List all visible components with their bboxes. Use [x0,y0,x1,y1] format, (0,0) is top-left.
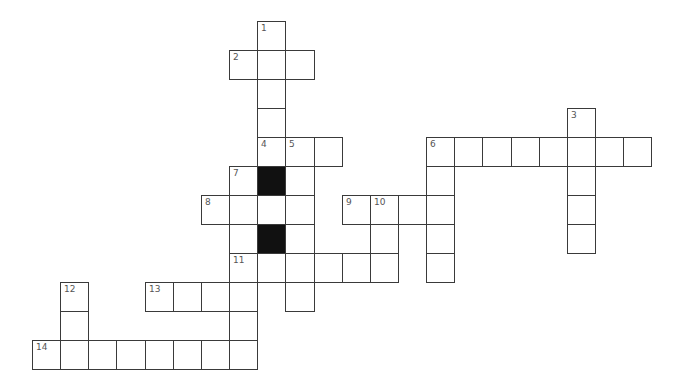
crossword-cell[interactable] [567,224,596,254]
clue-number: 9 [346,197,352,207]
clue-number: 10 [374,197,385,207]
clue-number: 3 [571,110,577,120]
crossword-cell[interactable] [539,137,568,167]
clue-number: 1 [261,23,267,33]
crossword-cell[interactable] [454,137,483,167]
clue-number: 2 [233,52,239,62]
crossword-cell[interactable] [257,253,286,283]
crossword-cell[interactable] [567,137,596,167]
clue-number: 8 [205,197,211,207]
crossword-cell[interactable] [257,79,286,109]
crossword-cell[interactable] [370,224,399,254]
crossword-cell[interactable]: 5 [285,137,315,167]
crossword-cell[interactable] [511,137,540,167]
crossword-cell[interactable] [285,166,315,196]
crossword-cell[interactable] [173,340,202,370]
crossword-cell[interactable] [623,137,652,167]
crossword-cell[interactable] [60,340,89,370]
crossword-cell[interactable] [426,253,455,283]
crossword-cell[interactable] [229,224,258,254]
crossword-cell[interactable] [229,311,258,341]
crossword-cell[interactable]: 12 [60,282,89,312]
clue-number: 14 [36,342,47,352]
crossword-cell[interactable]: 1 [257,21,286,51]
crossword-cell[interactable] [482,137,512,167]
crossword-cell[interactable] [285,282,315,312]
crossword-cell[interactable] [398,195,427,225]
crossword-cell[interactable] [285,50,315,80]
crossword-cell[interactable] [257,108,286,138]
crossword-cell[interactable]: 9 [342,195,371,225]
clue-number: 12 [64,284,75,294]
crossword-cell[interactable] [595,137,624,167]
crossword-cell[interactable] [173,282,202,312]
crossword-cell[interactable] [285,253,315,283]
crossword-cell[interactable]: 14 [32,340,61,370]
crossword-cell[interactable]: 13 [145,282,174,312]
crossword-cell[interactable] [229,195,258,225]
crossword-cell[interactable]: 2 [229,50,258,80]
crossword-cell[interactable] [257,195,286,225]
crossword-grid: 1423567118910121314 [0,0,679,387]
crossword-cell[interactable]: 8 [201,195,230,225]
clue-number: 4 [261,139,267,149]
crossword-cell[interactable] [229,282,258,312]
crossword-cell[interactable] [285,224,315,254]
crossword-cell[interactable] [314,253,343,283]
clue-number: 7 [233,168,239,178]
crossword-cell[interactable] [567,195,596,225]
clue-number: 5 [289,139,295,149]
crossword-cell[interactable]: 11 [229,253,258,283]
clue-number: 6 [430,139,436,149]
crossword-cell[interactable] [201,340,230,370]
crossword-cell[interactable] [145,340,174,370]
black-square [257,224,286,254]
crossword-cell[interactable] [116,340,146,370]
crossword-cell[interactable] [285,195,315,225]
crossword-cell[interactable] [426,224,455,254]
crossword-cell[interactable] [88,340,117,370]
crossword-cell[interactable] [426,166,455,196]
crossword-cell[interactable] [257,50,286,80]
crossword-cell[interactable] [229,340,258,370]
crossword-cell[interactable] [314,137,343,167]
clue-number: 11 [233,255,244,265]
crossword-cell[interactable]: 7 [229,166,258,196]
black-square [257,166,286,196]
crossword-cell[interactable] [426,195,455,225]
crossword-cell[interactable] [370,253,399,283]
crossword-cell[interactable]: 4 [257,137,286,167]
clue-number: 13 [149,284,160,294]
crossword-cell[interactable]: 3 [567,108,596,138]
crossword-cell[interactable]: 10 [370,195,399,225]
crossword-cell[interactable]: 6 [426,137,455,167]
crossword-cell[interactable] [342,253,371,283]
crossword-cell[interactable] [201,282,230,312]
crossword-cell[interactable] [567,166,596,196]
crossword-cell[interactable] [60,311,89,341]
